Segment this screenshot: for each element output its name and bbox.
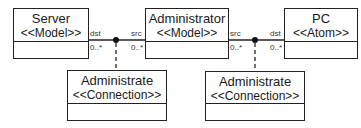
class-stereotype: <<Connection>> bbox=[206, 89, 304, 103]
class-name: Administrate bbox=[206, 74, 304, 89]
class-name: Administrator bbox=[146, 11, 228, 26]
class-stereotype: <<Atom>> bbox=[285, 26, 357, 40]
multiplicity-label: 0..* bbox=[230, 43, 242, 52]
multiplicity-label: 0..* bbox=[90, 43, 102, 52]
class-stereotype: <<Model>> bbox=[146, 26, 228, 40]
class-name: PC bbox=[285, 11, 357, 26]
role-label-dst: dst bbox=[270, 29, 281, 38]
role-label-dst: dst bbox=[90, 29, 101, 38]
class-server[interactable]: Server <<Model>> bbox=[13, 8, 89, 59]
class-name: Server bbox=[14, 11, 88, 26]
class-pc[interactable]: PC <<Atom>> bbox=[284, 8, 358, 59]
junction-dot-1 bbox=[113, 37, 119, 43]
class-name: Administrate bbox=[68, 73, 166, 88]
class-administrate-connection-2[interactable]: Administrate <<Connection>> bbox=[205, 71, 305, 121]
role-label-src: src bbox=[230, 29, 241, 38]
class-administrator[interactable]: Administrator <<Model>> bbox=[145, 8, 229, 59]
class-stereotype: <<Connection>> bbox=[68, 88, 166, 102]
junction-dot-2 bbox=[252, 37, 258, 43]
role-label-src: src bbox=[131, 29, 142, 38]
multiplicity-label: 0..* bbox=[270, 43, 282, 52]
class-stereotype: <<Model>> bbox=[14, 26, 88, 40]
multiplicity-label: 0..* bbox=[131, 43, 143, 52]
class-administrate-connection-1[interactable]: Administrate <<Connection>> bbox=[67, 70, 167, 121]
